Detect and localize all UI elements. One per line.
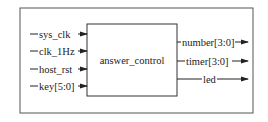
input-sys-clk: sys_clk — [30, 29, 87, 40]
input-clk-1hz: clk_1Hz — [30, 46, 87, 57]
svg-text:led: led — [203, 74, 217, 85]
input-host-rst: host_rst — [30, 64, 87, 75]
output-timer: timer[3:0] — [177, 56, 248, 67]
block-diagram: answer_control sys_clk clk_1Hz host_rst … — [0, 0, 268, 122]
module-name: answer_control — [100, 55, 165, 66]
svg-text:key[5:0]: key[5:0] — [39, 81, 75, 92]
svg-text:host_rst: host_rst — [39, 64, 72, 75]
input-key: key[5:0] — [30, 81, 87, 92]
svg-text:number[3:0]: number[3:0] — [182, 37, 235, 48]
output-number: number[3:0] — [177, 37, 248, 48]
svg-text:sys_clk: sys_clk — [39, 29, 71, 40]
svg-text:clk_1Hz: clk_1Hz — [39, 46, 75, 57]
output-led: led — [177, 74, 248, 85]
svg-text:timer[3:0]: timer[3:0] — [186, 56, 229, 67]
